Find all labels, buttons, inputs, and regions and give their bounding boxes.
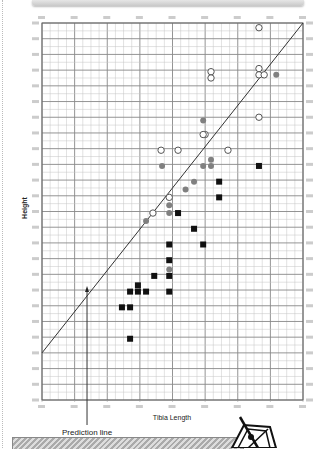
- black-square-point: [166, 273, 172, 279]
- y-tick-label-right: [306, 116, 313, 119]
- open-circle-point: [208, 75, 214, 81]
- black-square-point: [216, 179, 222, 185]
- gray-circle-point: [208, 157, 214, 163]
- y-tick-label: [32, 210, 39, 213]
- x-tick-label-top: [201, 16, 208, 19]
- x-axis-label: Tibia Length: [153, 414, 191, 422]
- black-square-point: [200, 241, 206, 247]
- gray-circle-point: [200, 163, 206, 169]
- prediction-annotation: [85, 286, 89, 425]
- x-tick-label-top: [169, 16, 176, 19]
- grid: [42, 23, 303, 400]
- x-tick-label-top: [38, 16, 45, 19]
- open-circle-point: [166, 194, 172, 200]
- black-square-point: [143, 289, 149, 295]
- black-square-point: [135, 289, 141, 295]
- y-tick-label-right: [306, 194, 313, 197]
- black-square-point: [151, 273, 157, 279]
- black-square-point: [256, 163, 262, 169]
- gray-circle-point: [166, 210, 172, 216]
- annotation-arrowhead: [85, 286, 89, 292]
- x-tick-label-top: [299, 16, 306, 19]
- y-tick-label: [32, 273, 39, 276]
- open-circle-point: [256, 65, 262, 71]
- y-tick-label-right: [306, 399, 313, 402]
- x-tick-label-top: [71, 16, 78, 19]
- y-tick-label: [32, 100, 39, 103]
- y-tick-label-right: [306, 100, 313, 103]
- y-tick-label-right: [306, 257, 313, 260]
- black-square-point: [127, 336, 133, 342]
- black-square-point: [166, 241, 172, 247]
- y-tick-label: [32, 257, 39, 260]
- black-square-point: [135, 282, 141, 288]
- open-circle-point: [256, 114, 262, 120]
- x-tick-label: [169, 405, 176, 408]
- y-tick-label-right: [306, 210, 313, 213]
- x-tick-label: [234, 405, 241, 408]
- y-tick-label: [32, 226, 39, 229]
- x-tick-label: [299, 405, 306, 408]
- gray-circle-point: [208, 163, 214, 169]
- y-tick-label: [32, 22, 39, 25]
- black-square-point: [191, 226, 197, 232]
- x-tick-label-top: [103, 16, 110, 19]
- y-tick-label-right: [306, 273, 313, 276]
- y-tick-label-right: [306, 383, 313, 386]
- black-square-point: [119, 304, 125, 310]
- y-tick-label: [32, 304, 39, 307]
- black-square-point: [127, 304, 133, 310]
- annotation-label: Prediction line: [62, 428, 113, 437]
- y-tick-label-right: [306, 320, 313, 323]
- y-tick-label-right: [306, 351, 313, 354]
- x-tick-label-top: [234, 16, 241, 19]
- y-tick-label: [32, 163, 39, 166]
- y-tick-label: [32, 399, 39, 402]
- y-tick-label-right: [306, 179, 313, 182]
- y-tick-label: [32, 116, 39, 119]
- y-tick-label: [32, 194, 39, 197]
- compass-icon: [218, 415, 278, 448]
- gray-circle-point: [273, 72, 279, 78]
- y-tick-label-right: [306, 53, 313, 56]
- y-axis-label: Height: [21, 196, 29, 218]
- gray-circle-point: [191, 179, 197, 185]
- y-tick-label-right: [306, 241, 313, 244]
- y-tick-label-right: [306, 131, 313, 134]
- y-tick-label: [32, 131, 39, 134]
- open-circle-point: [261, 72, 267, 78]
- y-tick-label-right: [306, 336, 313, 339]
- y-tick-label: [32, 241, 39, 244]
- black-square-point: [175, 210, 181, 216]
- y-tick-label: [32, 336, 39, 339]
- gray-circle-point: [143, 218, 149, 224]
- open-circle-point: [150, 210, 156, 216]
- y-tick-label: [32, 37, 39, 40]
- y-tick-label-right: [306, 163, 313, 166]
- x-tick-label-top: [266, 16, 273, 19]
- gray-circle-point: [159, 163, 165, 169]
- y-tick-label-right: [306, 22, 313, 25]
- y-tick-label-right: [306, 69, 313, 72]
- x-tick-label: [103, 405, 110, 408]
- y-tick-label-right: [306, 226, 313, 229]
- y-tick-label: [32, 179, 39, 182]
- y-tick-label: [32, 383, 39, 386]
- y-tick-label-right: [306, 289, 313, 292]
- y-tick-label-right: [306, 37, 313, 40]
- x-tick-label: [38, 405, 45, 408]
- black-square-point: [166, 289, 172, 295]
- y-tick-label: [32, 69, 39, 72]
- x-tick-label-top: [136, 16, 143, 19]
- y-tick-label-right: [306, 84, 313, 87]
- y-tick-label: [32, 84, 39, 87]
- gray-circle-point: [200, 117, 206, 123]
- y-tick-label: [32, 320, 39, 323]
- open-circle-point: [175, 147, 181, 153]
- x-tick-label: [71, 405, 78, 408]
- data-points: [119, 25, 279, 342]
- gray-circle-point: [166, 267, 172, 273]
- open-circle-point: [208, 68, 214, 74]
- y-tick-label: [32, 289, 39, 292]
